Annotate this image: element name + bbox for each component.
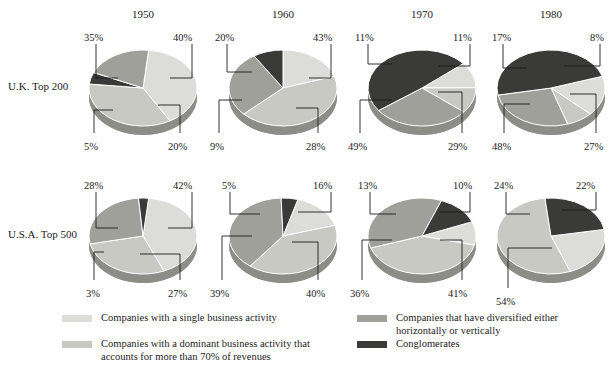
pie-slice-diversified [229,198,283,266]
leader-line [368,44,392,64]
pie-chart-figure: 1950196019701980U.K. Top 200U.S.A. Top 5… [0,0,613,371]
slice-percent-label: 40% [173,32,192,43]
pie-slice-conglomerate [368,50,463,111]
leader-line [298,192,331,212]
pie-slice-wall [229,236,250,275]
pie-slice-wall [89,88,170,135]
leader-line [562,192,596,210]
leader-line [504,104,530,133]
slice-percent-label: 10% [453,180,472,191]
pie-slice-wall [568,114,591,133]
pie-slice-dominant [250,225,337,274]
leader-line [438,92,462,133]
pie-slice-wall [497,236,570,283]
leader-line [508,248,552,288]
leader-line [440,240,462,280]
pie-slice-single [422,64,476,88]
pie-slice-diversified [229,56,283,114]
row-label-uk: U.K. Top 200 [8,80,68,92]
slice-percent-label: 39% [210,288,229,299]
pie-slice-single [551,229,605,271]
pie-slice-dominant [551,88,590,124]
pie-slice-wall [89,236,90,253]
pie-slice-single [551,76,605,114]
leader-line [296,108,318,133]
slice-percent-label: 9% [210,141,224,152]
leader-line [360,100,392,133]
pie-slice-dominant [244,76,337,126]
pie-slice-wall [464,88,476,121]
pie-slice-wall [570,236,605,281]
column-year-label: 1970 [392,8,452,20]
legend-label-dominant: Companies with a dominant business activ… [101,338,310,363]
pie-slice-wall [590,88,605,123]
column-year-label: 1950 [113,8,173,20]
pie-slice-single [422,222,476,245]
pie-slice-diversified [379,88,464,126]
leader-line [219,100,242,133]
slice-percent-label: 29% [448,141,467,152]
leader-line [96,44,118,78]
legend-label-diversified: Companies that have diversified either h… [396,312,558,337]
slice-percent-label: 43% [313,32,332,43]
pie-slice-single [143,198,197,271]
slice-percent-label: 28% [306,141,325,152]
leader-line [438,44,470,66]
slice-percent-label: 11% [453,32,472,43]
pie-slice-wall [379,111,464,135]
slice-percent-label: 20% [215,32,234,43]
slice-percent-label: 13% [358,180,377,191]
pie-slice-diversified [498,88,568,126]
pie-rim [497,236,605,283]
pie-slice-single [283,199,335,236]
leader-line [564,44,600,66]
pie-slice-wall [244,88,337,135]
leader-line [94,252,104,280]
legend-item-single: Companies with a single business activit… [62,312,312,325]
leader-line [227,44,252,72]
pie-slice-wall [368,88,379,120]
slice-percent-label: 22% [576,180,595,191]
leader-line [96,192,118,228]
column-year-label: 1960 [253,8,313,20]
leader-line [222,236,252,280]
legend-swatch-conglomerate [357,341,387,348]
pie-rim [368,236,476,283]
leader-line [362,240,392,280]
pie-slice-wall [170,88,197,130]
leader-line [370,192,396,214]
pie-rim [89,236,197,283]
legend-item-conglomerate: Conglomerates [357,338,607,351]
slice-percent-label: 49% [348,141,367,152]
slice-percent-label: 5% [84,141,98,152]
legend-item-diversified: Companies that have diversified either h… [357,312,607,337]
slice-percent-label: 40% [306,288,325,299]
pie-slice-wall [250,236,337,283]
pie-rim [497,88,605,135]
pie-slice-single [143,50,197,121]
pie-rim [229,236,337,283]
pie-slice-single [283,50,334,88]
slice-percent-label: 3% [86,288,100,299]
slice-percent-label: 36% [350,288,369,299]
slice-percent-label: 27% [168,288,187,299]
slice-percent-label: 5% [222,180,236,191]
pie-rim [89,88,197,135]
pie-rim [368,88,476,135]
leader-line [506,192,530,214]
pie-slice-dominant [497,198,570,274]
leader-line [570,94,596,133]
leader-line [94,110,113,133]
slice-percent-label: 11% [355,32,374,43]
pie-slice-conglomerate [254,50,283,88]
slice-percent-label: 28% [84,180,103,191]
legend-item-dominant: Companies with a dominant business activ… [62,338,312,363]
pie-slice-conglomerate [138,198,148,236]
leader-line [309,44,331,78]
pie-slice-conglomerate [497,50,602,95]
pie-slice-wall [368,236,371,257]
slice-percent-label: 35% [84,32,103,43]
slice-percent-label: 24% [494,180,513,191]
slice-percent-label: 42% [173,180,192,191]
pie-slice-dominant [89,84,170,126]
